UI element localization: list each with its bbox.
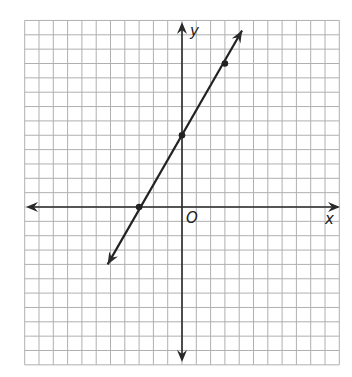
- data-line: [108, 30, 242, 264]
- data-point: [136, 204, 143, 211]
- x-axis-label: x: [324, 210, 334, 228]
- origin-label: O: [186, 209, 198, 227]
- coordinate-graph: x y O: [0, 0, 352, 377]
- data-point: [179, 132, 186, 139]
- y-axis-label: y: [189, 22, 200, 40]
- plotted-line: [108, 30, 242, 264]
- data-point: [222, 60, 229, 67]
- axes: [26, 22, 340, 362]
